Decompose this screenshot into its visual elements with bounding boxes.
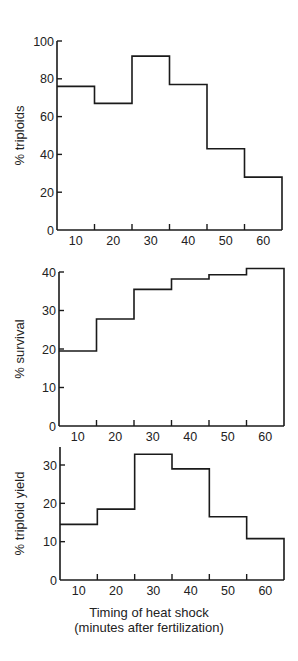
- x-axis-title-line1: Timing of heat shock: [0, 606, 298, 620]
- x-tick-label: 50: [221, 584, 235, 598]
- histogram-step-line: [60, 454, 284, 580]
- y-tick-label: 20: [43, 497, 57, 511]
- x-tick-label: 60: [258, 584, 272, 598]
- x-tick-label: 10: [71, 430, 85, 444]
- x-tick-label: 20: [109, 584, 123, 598]
- x-tick-label: 40: [183, 430, 197, 444]
- x-tick-label: 10: [72, 584, 86, 598]
- x-tick-label: 30: [146, 584, 160, 598]
- triploids-panel: 020406080100102030405060% triploids: [12, 35, 282, 249]
- y-tick-label: 30: [43, 459, 57, 473]
- x-tick-label: 50: [221, 430, 235, 444]
- y-tick-label: 80: [40, 72, 54, 86]
- histogram-step-line: [57, 56, 282, 230]
- y-axis-title: % triploids: [12, 105, 27, 165]
- x-tick-label: 60: [256, 234, 270, 248]
- x-tick-label: 50: [219, 234, 233, 248]
- y-axis-title: % survival: [12, 319, 27, 378]
- y-tick-label: 20: [42, 343, 56, 357]
- x-tick-label: 20: [106, 234, 120, 248]
- survival-panel: 010203040102030405060% survival: [12, 266, 284, 445]
- chart-svg: 020406080100102030405060% triploids01020…: [0, 0, 298, 661]
- x-tick-label: 40: [184, 584, 198, 598]
- histogram-step-line: [59, 269, 284, 426]
- y-tick-label: 100: [33, 35, 54, 49]
- x-tick-label: 60: [258, 430, 272, 444]
- x-tick-label: 20: [108, 430, 122, 444]
- y-tick-label: 10: [42, 381, 56, 395]
- x-tick-label: 30: [144, 234, 158, 248]
- x-tick-label: 40: [181, 234, 195, 248]
- y-tick-label: 0: [47, 224, 54, 238]
- y-tick-label: 20: [40, 186, 54, 200]
- triploid-yield-panel: 0102030102030405060% triploid yield: [12, 447, 284, 598]
- figure: 020406080100102030405060% triploids01020…: [0, 0, 298, 661]
- y-tick-label: 30: [42, 304, 56, 318]
- x-tick-label: 30: [146, 430, 160, 444]
- x-axis-title-line2: (minutes after fertilization): [0, 621, 298, 635]
- y-tick-label: 40: [42, 266, 56, 280]
- y-tick-label: 60: [40, 110, 54, 124]
- y-tick-label: 10: [43, 535, 57, 549]
- y-tick-label: 0: [49, 420, 56, 434]
- y-axis-title: % triploid yield: [12, 472, 27, 556]
- y-tick-label: 0: [50, 574, 57, 588]
- y-tick-label: 40: [40, 148, 54, 162]
- x-tick-label: 10: [69, 234, 83, 248]
